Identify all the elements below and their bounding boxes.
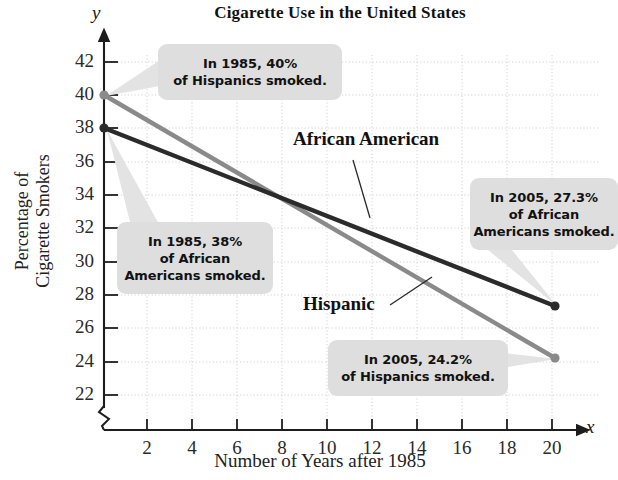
x-axis-title: Number of Years after 1985: [120, 450, 520, 472]
callout-line: of African: [473, 206, 614, 223]
callout-african-american-2005: In 2005, 27.3% of African Americans smok…: [470, 178, 618, 250]
y-axis-break: [99, 406, 109, 430]
y-tick-label: 28: [50, 283, 94, 305]
callout-line: In 1985, 38%: [124, 233, 265, 250]
x-axis-letter: x: [586, 416, 594, 438]
callout-african-american-1985: In 1985, 38% of African Americans smoked…: [117, 222, 273, 294]
y-tick-label: 38: [50, 116, 94, 138]
callout-line: In 2005, 27.3%: [473, 189, 614, 206]
callout-line: of African: [124, 250, 265, 267]
callout-hispanic-1985: In 1985, 40% of Hispanics smoked.: [158, 44, 342, 100]
callout-line: Americans smoked.: [124, 267, 265, 284]
y-tick-label: 34: [50, 183, 94, 205]
x-tick-label: 20: [532, 437, 572, 459]
pointer-african-american-2005: [488, 250, 557, 306]
callout-line: of Hispanics smoked.: [173, 72, 327, 89]
pointer-african-american-1985: [107, 130, 160, 226]
y-axis-title: Percentage of Cigarette Smokers: [12, 126, 54, 316]
callout-line: of Hispanics smoked.: [341, 368, 495, 385]
y-tick-label: 30: [50, 250, 94, 272]
y-tick-label: 42: [50, 50, 94, 72]
series-label-african-american: African American: [293, 128, 439, 150]
x-axis-ticks: [147, 419, 552, 430]
y-tick-label: 36: [50, 150, 94, 172]
y-axis-letter: y: [92, 2, 100, 24]
series-label-hispanic: Hispanic: [303, 293, 375, 315]
y-tick-label: 22: [50, 383, 94, 405]
leader-line-hispanic: [390, 277, 432, 305]
y-tick-label: 32: [50, 216, 94, 238]
callout-line: Americans smoked.: [473, 223, 614, 240]
callout-line: In 1985, 40%: [173, 55, 327, 72]
y-tick-label: 24: [50, 350, 94, 372]
y-axis-ticks: [104, 62, 118, 395]
y-axis-title-line1: Percentage of: [12, 126, 33, 316]
y-tick-label: 40: [50, 83, 94, 105]
y-tick-label: 26: [50, 316, 94, 338]
callout-hispanic-2005: In 2005, 24.2% of Hispanics smoked.: [328, 340, 508, 396]
leader-line-african-american: [353, 160, 370, 218]
callout-line: In 2005, 24.2%: [341, 351, 495, 368]
pointer-hispanic-1985: [106, 60, 160, 96]
y-axis-title-line2: Cigarette Smokers: [33, 126, 54, 316]
